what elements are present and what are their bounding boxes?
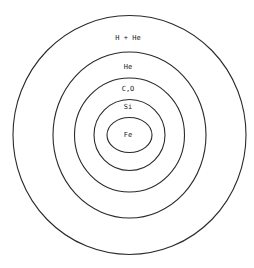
shell-c-o-label: C,O xyxy=(122,85,135,93)
shell-si-label: Si xyxy=(124,103,132,111)
diagram-canvas: H + HeHeC,OSiFe xyxy=(0,0,254,268)
shell-fe-label: Fe xyxy=(124,131,132,139)
shell-he-label: He xyxy=(124,63,132,71)
shell-diagram: H + HeHeC,OSiFe xyxy=(0,0,254,268)
shell-h-he-label: H + He xyxy=(115,34,140,42)
labels-group: H + HeHeC,OSiFe xyxy=(115,34,140,139)
